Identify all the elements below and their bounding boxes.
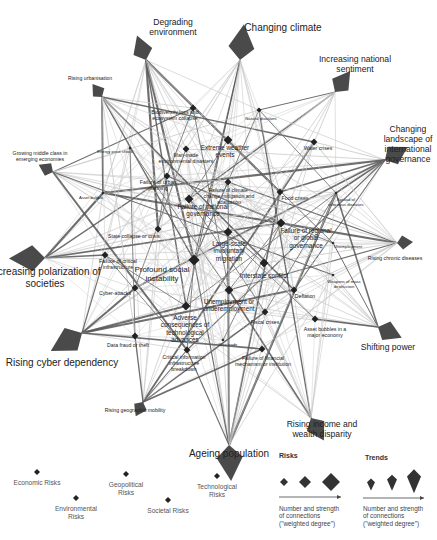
trend-label-rising-income-wealth-disparity: Rising income and wealth disparity (285, 420, 360, 440)
risk-label-natural-disasters: Natural disasters (243, 117, 279, 122)
legend-category-4: Technological Risks (192, 483, 242, 498)
trend-label-rising-chronic-diseases: Rising chronic diseases (358, 256, 433, 262)
risk-label-deflation: Deflation (277, 294, 333, 300)
risk-label-asset-bubble-small: Asset bubble (73, 196, 109, 201)
risk-label-asset-bubbles: Asset bubbles in a major economy (297, 327, 353, 339)
legend-trends-heading: Trends (365, 454, 388, 462)
risk-label-food-crises: Food crises (267, 196, 323, 202)
risk-label-large-scale-migration: Large-scale involuntary migration (200, 240, 258, 262)
trend-node-rising-urbanisation (93, 84, 105, 97)
trend-label-changing-landscape-intl-governance: Changing landscape of international gove… (371, 125, 437, 165)
legend-category-0: Economic Risks (12, 479, 62, 487)
legend-category-3: Societal Risks (143, 507, 193, 515)
risk-label-energy-price-shock: Energy price shock (97, 150, 133, 155)
legend-trends-desc: Number and strength of connections ("wei… (363, 505, 423, 527)
legend-category-1: Environmental Risks (51, 505, 101, 520)
legend-category-2: Geopolitical Risks (101, 481, 151, 496)
trend-label-increasing-national-sentiment: Increasing national sentiment (318, 55, 393, 75)
risk-label-spread-infectious-diseases: Spread of infectious diseases (328, 198, 364, 208)
risk-label-biodiversity-loss: Biodiversity loss and ecosystem collapse (147, 110, 203, 122)
risk-label-critical-info-infrastructure: Critical information infrastructure brea… (156, 355, 212, 373)
risk-label-man-made-env-disasters: Man-made environmental disasters (158, 153, 214, 165)
legend-risks-heading: Risks (279, 452, 298, 460)
risk-label-unemployment-note: Unemployment (330, 245, 366, 250)
risk-label-failure-regional-global-governance: Failure of regional or global governance (277, 227, 335, 249)
trend-label-rising-urbanisation: Rising urbanisation (53, 76, 128, 82)
trend-node-rising-cyber-dependency (51, 328, 82, 351)
trend-label-growing-middle-class: Growing middle class in emerging economi… (3, 151, 78, 163)
risk-label-unemployment: Unemployment or underemployment (200, 298, 258, 313)
risk-label-illicit-trade: Illicit trade (210, 343, 246, 348)
risk-label-data-fraud: Data fraud or theft (100, 343, 156, 349)
trend-node-rising-chronic-diseases (397, 236, 413, 250)
trend-label-ageing-population: Ageing population (169, 448, 289, 460)
risk-label-failure-national-governance: Failure of national governance (174, 203, 232, 218)
trend-label-rising-cyber-dependency: Rising cyber dependency (2, 357, 122, 369)
risk-label-fiscal-crises: Fiscal crises (237, 320, 293, 326)
risk-label-state-collapse: State collapse or crisis (106, 234, 162, 240)
legend-risks-desc: Number and strength of connections ("wei… (279, 505, 339, 527)
trend-node-growing-middle-class (39, 163, 53, 176)
trend-label-degrading-environment: Degrading environment (136, 18, 211, 38)
trend-label-changing-climate: Changing climate (223, 22, 343, 34)
risk-label-interstate-conflict: Interstate conflict (235, 272, 293, 279)
trend-label-rising-geographic-mobility: Rising geographic mobility (98, 408, 173, 414)
trend-node-shifting-power (378, 322, 402, 340)
risk-label-failure-urban-planning: Failure of urban planning (130, 180, 186, 192)
risk-label-adverse-tech: Adverse consequences of technological ad… (156, 314, 214, 343)
trend-node-degrading-environment (134, 36, 153, 60)
trend-label-shifting-power: Shifting power (351, 343, 426, 353)
risk-label-profound-social-instability: Profound social instability (132, 265, 192, 283)
risk-label-water-crises: Water crises (290, 146, 346, 152)
risk-label-wmd: Weapons of mass destruction (326, 280, 362, 290)
risk-label-cyber-attacks: Cyber-attacks (87, 291, 143, 297)
risk-label-failure-financial-mechanism: Failure of financial mechanism or instit… (235, 356, 291, 368)
risk-node-adverse-tech (182, 302, 191, 311)
